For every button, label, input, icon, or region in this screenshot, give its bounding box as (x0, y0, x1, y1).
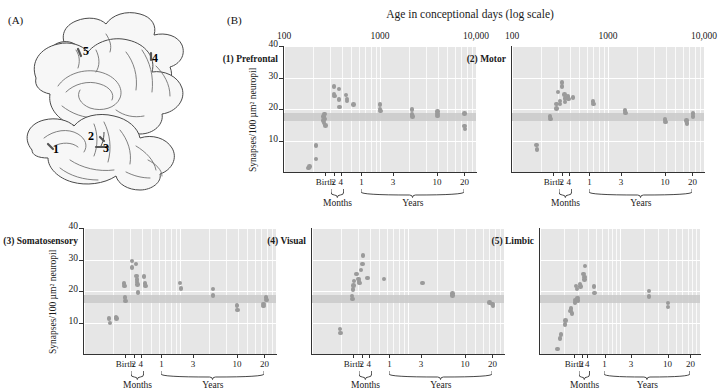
data-point (134, 262, 139, 267)
gridline-minor (209, 228, 210, 354)
x-tick-label: Birth (107, 359, 143, 369)
y-tick (79, 291, 83, 292)
x-tick-label: 2 (116, 359, 152, 369)
y-axis-line (283, 46, 284, 173)
chart-title: (2) Motor (467, 54, 506, 64)
y-tick-label: 10 (54, 316, 78, 326)
data-point (135, 277, 140, 282)
x-tick (621, 172, 622, 176)
gridline-horizontal (284, 78, 476, 79)
panel-a-brain-diagram: (A) (0, 0, 228, 200)
x-tick-label: 20 (446, 177, 482, 187)
x-axis-line (283, 172, 477, 173)
gridline-minor (226, 228, 227, 354)
y-tick (279, 46, 283, 47)
data-point (435, 114, 440, 119)
gridline-minor (130, 228, 131, 354)
gridline-minor (113, 228, 114, 354)
x-tick (161, 354, 162, 358)
data-point (556, 90, 561, 95)
y-tick (279, 78, 283, 79)
chart-title: (1) Prefrontal (223, 54, 278, 64)
x-tick (464, 172, 465, 176)
months-brace (331, 189, 344, 198)
brain-label-5: 5 (83, 44, 89, 58)
data-point (123, 299, 128, 304)
figure-supertitle: Age in conceptional days (log scale) (228, 8, 712, 20)
months-group-label: Months (526, 198, 606, 208)
data-point (178, 281, 183, 286)
data-point (143, 281, 148, 286)
gridline-minor (176, 228, 177, 354)
data-point (410, 107, 415, 112)
gridline-minor (159, 228, 160, 354)
data-point (462, 111, 467, 116)
data-point (571, 95, 576, 100)
gridline-horizontal (512, 109, 704, 110)
data-point (211, 293, 216, 298)
y-axis-title: Synapses/100 µm² neuropil (248, 68, 258, 172)
x-tick (562, 172, 563, 176)
top-axis-tick-label: 10,000 (682, 31, 722, 41)
x-tick-label: 1 (571, 177, 607, 187)
y-tick (79, 228, 83, 229)
panel-b-charts: (B) Age in conceptional days (log scale)… (228, 0, 712, 384)
data-point (108, 321, 113, 326)
x-tick-label: 3 (375, 177, 411, 187)
gridline-major (84, 228, 85, 354)
data-point (322, 112, 327, 117)
top-axis-tick-label: 1000 (358, 31, 402, 41)
data-point (332, 84, 337, 89)
data-point (685, 121, 690, 126)
gridline-horizontal (284, 141, 476, 142)
data-point (337, 87, 342, 92)
data-point (122, 284, 127, 289)
data-point (351, 102, 356, 107)
data-point (211, 287, 216, 292)
reference-band (512, 113, 704, 121)
x-tick (361, 172, 362, 176)
plot-area (284, 46, 476, 172)
months-group-label: Months (298, 198, 378, 208)
data-point (123, 295, 128, 300)
y-tick (79, 260, 83, 261)
y-tick-label: 30 (54, 253, 78, 263)
data-point (560, 84, 565, 89)
x-tick-label: 20 (674, 177, 710, 187)
gridline-minor (142, 228, 143, 354)
data-point (143, 284, 148, 289)
x-tick-label: 4 (123, 359, 159, 369)
top-axis-tick-label: 1000 (586, 31, 630, 41)
data-point (179, 286, 184, 291)
x-axis-line (511, 172, 705, 173)
top-axis-tick-label: 100 (262, 31, 306, 41)
y-tick-label: 20 (54, 284, 78, 294)
data-point (134, 274, 139, 279)
x-tick (125, 354, 126, 358)
data-point (114, 316, 119, 321)
x-tick-label: 1 (143, 359, 179, 369)
reference-band (284, 113, 476, 121)
brain-label-1: 1 (53, 142, 59, 156)
data-point (378, 109, 383, 114)
x-tick (134, 354, 135, 358)
x-tick (393, 172, 394, 176)
x-tick (341, 172, 342, 176)
data-point (554, 106, 559, 111)
brain-label-2: 2 (88, 129, 94, 143)
y-axis-line (511, 46, 512, 173)
gridline-horizontal (512, 141, 704, 142)
data-point (122, 281, 127, 286)
data-point (307, 164, 312, 169)
x-tick (325, 172, 326, 176)
gridline-minor (165, 228, 166, 354)
gridline-minor (151, 228, 152, 354)
data-point (558, 102, 563, 107)
months-brace (559, 189, 572, 198)
brain-illustration: 5 4 2 3 1 (0, 0, 228, 200)
data-point (314, 157, 319, 162)
x-tick-label: 3 (175, 359, 211, 369)
x-tick (589, 172, 590, 176)
y-tick (79, 323, 83, 324)
data-point (142, 274, 147, 279)
